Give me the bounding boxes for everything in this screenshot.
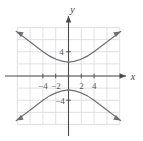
plot-canvas: −4 −2 2 4 4 −4 x y <box>0 0 143 141</box>
x-axis-arrow-icon <box>120 73 127 79</box>
y-tick-label-4: 4 <box>59 47 64 57</box>
y-axis-label: y <box>69 4 75 15</box>
x-tick-label-neg4: −4 <box>38 81 48 91</box>
y-tick-label-neg4: −4 <box>55 96 65 106</box>
x-axis-label: x <box>130 71 136 82</box>
x-axis <box>5 73 126 79</box>
hyperbola-graph-figure: −4 −2 2 4 4 −4 x y <box>0 0 143 141</box>
x-tick-label-2: 2 <box>79 81 84 91</box>
y-axis-arrow-icon <box>66 16 72 23</box>
x-tick-label-neg2: −2 <box>51 81 61 91</box>
x-tick-label-4: 4 <box>92 81 97 91</box>
